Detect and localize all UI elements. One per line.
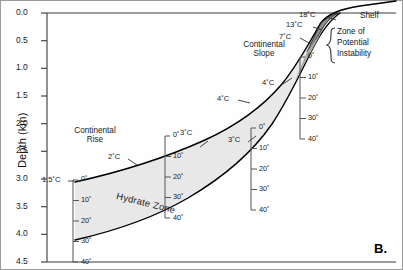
figure-panel: Depth (km) 0.0 0.5 1.0 1.5 2.0 2.5 3.0 3… [0,0,403,270]
slope-scale-tick-4: 40˚ [259,206,270,214]
rise-scale-tick-1: 10˚ [81,196,92,204]
temp-label-8: 13˚C [286,21,302,30]
upper-scale-tick-0: 0˚ [308,52,315,60]
y-tick-9: 4.5 [16,257,28,267]
rise-scale-tick-4: 40˚ [81,258,92,266]
mid-scale-tick-3: 30˚ [173,193,184,201]
y-tick-0: 0.0 [16,8,28,18]
label-shelf: Shelf [360,11,379,20]
panel-label: B. [374,242,387,257]
y-tick-1: 0.5 [16,36,28,46]
label-continental-rise: Continental Rise [60,126,130,144]
mid-scale-tick-2: 20˚ [173,173,184,181]
y-tick-8: 4.0 [16,229,28,239]
temp-label-6: 4˚C [262,79,274,88]
temp-label-9: 18˚C [299,11,315,20]
temp-label-3: 3˚C [180,129,192,138]
upper-scale-tick-4: 40˚ [308,135,319,143]
temp-label-2: 2˚C [108,153,120,162]
upper-scale-tick-3: 30˚ [308,114,319,122]
slope-scale-tick-3: 30˚ [259,185,270,193]
y-tick-3: 1.5 [16,91,28,101]
temp-label-7: 7˚C [279,33,291,42]
temp-label-1: 1.5˚C [42,176,61,185]
slope-scale-tick-1: 10˚ [259,144,270,152]
mid-scale-tick-0: 0˚ [173,131,180,139]
slope-scale-tick-0: 0˚ [259,123,266,131]
y-tick-6: 3.0 [16,174,28,184]
rise-scale-tick-0: 0˚ [81,175,88,183]
label-continental-slope: Continental Slope [228,40,300,58]
upper-scale-tick-2: 20˚ [308,94,319,102]
y-tick-7: 3.5 [16,202,28,212]
rise-scale-tick-2: 20˚ [81,217,92,225]
y-tick-4: 2.0 [16,119,28,129]
temp-label-4: 3˚C [228,136,240,145]
mid-scale-tick-4: 40˚ [173,214,184,222]
mid-scale-tick-1: 10˚ [173,152,184,160]
upper-scale-tick-1: 10˚ [308,73,319,81]
label-zone-of-potential-instability: Zone of Potential Instability [337,26,399,59]
y-tick-5: 2.5 [16,146,28,156]
y-tick-2: 1.0 [16,63,28,73]
slope-scale-tick-2: 20˚ [259,165,270,173]
rise-scale-tick-3: 30˚ [81,237,92,245]
temp-label-5: 4˚C [217,95,229,104]
